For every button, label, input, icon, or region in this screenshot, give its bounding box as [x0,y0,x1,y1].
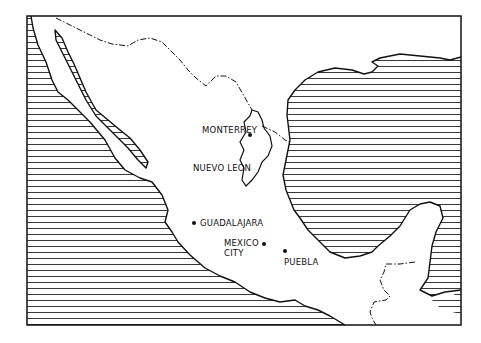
guadalajara-marker[interactable] [192,221,196,225]
map-canvas: MONTERREY NUEVO LEON GUADALAJARA MEXICO … [0,0,481,343]
nuevo-leon-label: NUEVO LEON [193,163,251,173]
nuevo-leon-state [240,110,272,186]
puebla-label: PUEBLA [284,257,319,267]
monterrey-label: MONTERREY [202,125,258,135]
guadalajara-label: GUADALAJARA [200,218,263,228]
mexico-city-label-line1: MEXICO [224,238,259,248]
mexico-city-label-line2: CITY [224,248,244,258]
puebla-marker[interactable] [283,249,287,253]
mexico-city-marker[interactable] [262,242,266,246]
